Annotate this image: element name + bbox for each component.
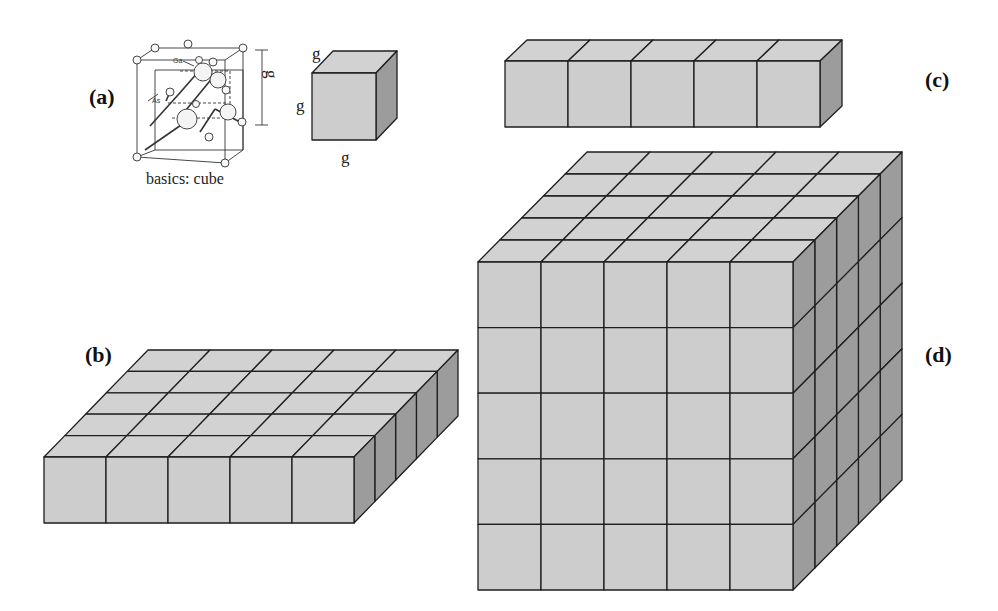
bond bbox=[200, 109, 215, 132]
cube-front-face bbox=[604, 524, 667, 590]
panel-label-c: (c) bbox=[925, 67, 949, 93]
cube-front-face bbox=[604, 328, 667, 394]
cube-front-face bbox=[667, 262, 730, 328]
cube-front-face bbox=[694, 61, 757, 127]
cube-front-face bbox=[604, 393, 667, 459]
cube-front-face bbox=[541, 459, 604, 525]
cube-front-face bbox=[230, 457, 292, 523]
cube-d bbox=[478, 152, 902, 590]
row-c bbox=[505, 40, 842, 127]
cube-front-face bbox=[730, 328, 793, 394]
cube-front-face bbox=[730, 393, 793, 459]
cube-front-face bbox=[667, 393, 730, 459]
cube-front-face bbox=[541, 328, 604, 394]
unit-cube-depth-label: g bbox=[312, 44, 321, 64]
cube-front-face bbox=[730, 262, 793, 328]
cube-front-face bbox=[631, 61, 694, 127]
cube-front-face bbox=[730, 524, 793, 590]
cube-front-face bbox=[604, 262, 667, 328]
cube-front-face bbox=[730, 459, 793, 525]
cube-front-face bbox=[478, 393, 541, 459]
cube-front-face bbox=[541, 524, 604, 590]
cube-front-face bbox=[505, 61, 568, 127]
cube-front-face bbox=[478, 328, 541, 394]
cube-front-face bbox=[757, 61, 820, 127]
cube-front-face bbox=[478, 262, 541, 328]
unit-cube bbox=[312, 51, 397, 140]
cube-front-face bbox=[541, 262, 604, 328]
cube-front-face bbox=[667, 524, 730, 590]
cube-front-face bbox=[667, 328, 730, 394]
ga-atoms bbox=[177, 63, 236, 129]
panel-label-a: (a) bbox=[89, 84, 115, 110]
ga-leader-line bbox=[183, 61, 194, 66]
panel-a-caption: basics: cube bbox=[146, 170, 224, 188]
cube-front-face bbox=[478, 459, 541, 525]
cube-front-face bbox=[604, 459, 667, 525]
cube-blocks bbox=[44, 40, 902, 590]
bond bbox=[145, 123, 184, 150]
gaas-crystal-structure-diagram: Ga As bbox=[133, 40, 268, 167]
cube-front-face bbox=[44, 457, 106, 523]
cube-front-face bbox=[568, 61, 631, 127]
panel-label-b: (b) bbox=[85, 342, 112, 368]
cube-front-face bbox=[541, 393, 604, 459]
ga-atom-label: Ga bbox=[173, 57, 182, 64]
cube-front-face bbox=[312, 73, 376, 140]
cube-front-face bbox=[478, 524, 541, 590]
cube-front-face bbox=[667, 459, 730, 525]
slab-b bbox=[44, 350, 458, 523]
cube-front-face bbox=[168, 457, 230, 523]
crystal-dimension-label: g bbox=[261, 70, 281, 79]
figure-canvas: Ga As bbox=[0, 0, 998, 611]
unit-cube-height-label: g bbox=[296, 96, 305, 116]
unit-cube-width-label: g bbox=[341, 148, 350, 168]
as-atom-label: As bbox=[152, 97, 161, 104]
panel-label-d: (d) bbox=[925, 342, 952, 368]
cube-front-face bbox=[106, 457, 168, 523]
cube-front-face bbox=[292, 457, 354, 523]
